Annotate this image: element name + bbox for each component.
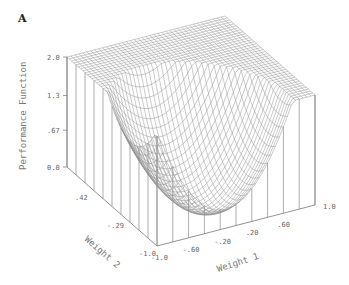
x-tick-label: -.20 — [214, 238, 231, 246]
surface-plot: 0.0.671.32.0-1.0-.29.42-1.0-.60-.20.20.6… — [0, 0, 349, 285]
x-tick-label: -1.0 — [151, 254, 168, 262]
z-tick-label: 1.3 — [47, 92, 60, 100]
x-tick-label: 1.0 — [323, 203, 336, 211]
surface-mesh — [67, 16, 315, 215]
z-axis-label: Performance Function — [18, 62, 28, 170]
x-tick-label: .60 — [277, 221, 290, 229]
axes: 0.0.671.32.0-1.0-.29.42-1.0-.60-.20.20.6… — [47, 54, 336, 263]
x-tick-label: -.60 — [183, 246, 200, 254]
z-tick-label: 2.0 — [47, 54, 60, 62]
x-tick-label: .20 — [246, 229, 259, 237]
z-tick-label: .67 — [47, 127, 60, 135]
y-tick-label: .42 — [75, 194, 88, 202]
y-tick-label: -.29 — [107, 222, 124, 230]
z-tick-label: 0.0 — [47, 164, 60, 172]
y-axis-label: Weight 2 — [83, 234, 122, 270]
x-axis-label: Weight 1 — [216, 251, 260, 274]
